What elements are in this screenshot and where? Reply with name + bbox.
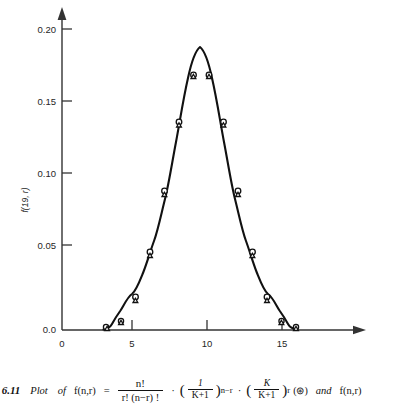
arrow-up-icon — [58, 7, 67, 20]
caption-multiply-dot-2: · — [233, 384, 247, 396]
x-tick-label-2: 10 — [202, 338, 213, 349]
chart-plot-area: 0.0 0.05 0.10 0.15 0.20 0 5 10 15 f(19, … — [0, 0, 410, 355]
fraction-denominator: r! (n−r) ! — [118, 391, 163, 403]
x-tick-marks — [132, 320, 282, 330]
x-tick-label-3: 15 — [277, 338, 288, 349]
x-tick-label-1: 5 — [129, 338, 134, 349]
y-tick-marks — [62, 29, 72, 245]
y-tick-label-3: 0.15 — [38, 96, 57, 107]
caption-fraction-one-over-k1: 1 K+1 — [188, 379, 213, 401]
caption-word-of: of — [53, 385, 71, 396]
caption-fraction-factorial: n! r! (n−r) ! — [118, 378, 163, 403]
fraction-denominator: K+1 — [188, 390, 213, 401]
caption-circle-marker-note: (⊛) — [290, 385, 311, 396]
caption-paren-open-2: ( — [246, 383, 251, 398]
y-tick-label-4: 0.20 — [38, 24, 57, 35]
caption-word-plot: Plot — [25, 385, 53, 396]
caption-word-and: and — [311, 385, 337, 396]
caption-figure-number: e 6.11 — [0, 384, 25, 396]
caption-paren-open-1: ( — [180, 383, 185, 398]
data-markers — [103, 72, 298, 330]
y-tick-label-1: 0.05 — [38, 240, 57, 251]
y-tick-label-2: 0.10 — [38, 168, 57, 179]
chart-svg: 0.0 0.05 0.10 0.15 0.20 0 5 10 15 f(19, … — [0, 0, 410, 355]
caption-multiply-dot-1: · — [166, 384, 180, 396]
y-axis-title: f(19, r) — [20, 187, 30, 212]
caption-exponent-n-minus-r: n−r — [221, 386, 233, 395]
y-tick-label-0: 0.0 — [43, 324, 56, 335]
figure-caption: e 6.11 Plot of f(n,r) = n! r! (n−r) ! · … — [0, 368, 410, 414]
figure-page: 0.0 0.05 0.10 0.15 0.20 0 5 10 15 f(19, … — [0, 0, 410, 414]
fraction-numerator: K — [260, 379, 274, 389]
caption-equals-sign: = — [99, 385, 115, 396]
x-tick-label-0: 0 — [59, 338, 64, 349]
caption-function-lhs: f(n,r) — [71, 385, 99, 396]
fraction-numerator: n! — [132, 378, 149, 390]
fraction-denominator: K+1 — [254, 390, 279, 401]
fraction-numerator: 1 — [194, 379, 207, 389]
caption-function-rhs: f(n,r) — [337, 385, 365, 396]
caption-fraction-k-over-k1: K K+1 — [254, 379, 279, 401]
y-axis — [58, 7, 67, 330]
arrow-right-icon — [353, 326, 366, 334]
distribution-curve — [104, 47, 297, 330]
